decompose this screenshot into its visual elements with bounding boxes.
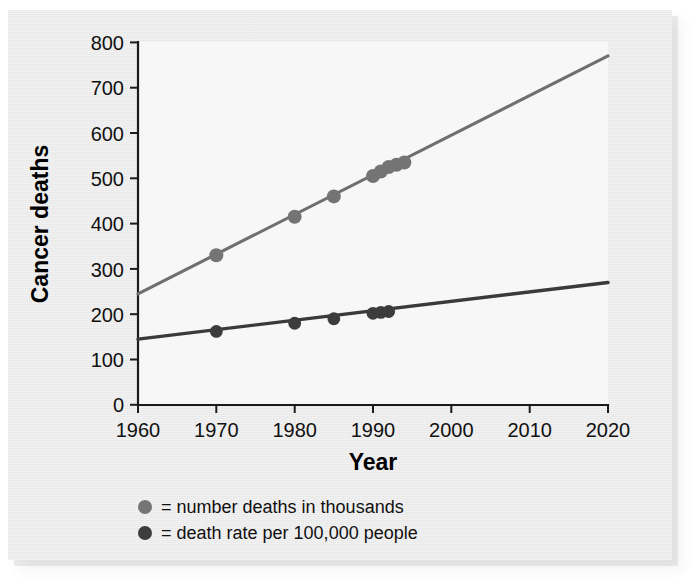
plot-background	[138, 42, 608, 405]
y-tick-label: 800	[91, 32, 124, 54]
legend-marker-circle-icon	[138, 526, 152, 540]
x-axis-title: Year	[349, 449, 398, 475]
y-axis-title: Cancer deaths	[27, 145, 53, 304]
y-tick-label: 400	[91, 213, 124, 235]
y-tick-label: 100	[91, 349, 124, 371]
legend-marker-circle-icon	[138, 500, 152, 514]
data-point-marker	[210, 325, 223, 338]
y-tick-label: 600	[91, 123, 124, 145]
y-tick-label: 300	[91, 259, 124, 281]
legend-item-death-rate: = death rate per 100,000 people	[138, 521, 608, 545]
y-axis-tick-labels: 800 700 600 500 400 300 200 100 0	[91, 32, 124, 416]
y-axis-ticks	[130, 42, 138, 404]
chart-legend: = number deaths in thousands = death rat…	[138, 495, 608, 547]
data-point-marker	[288, 210, 302, 224]
data-point-marker	[327, 189, 341, 203]
x-tick-label: 2000	[429, 419, 474, 441]
legend-item-number-deaths: = number deaths in thousands	[138, 495, 608, 519]
data-point-marker	[209, 248, 223, 262]
y-tick-label: 500	[91, 168, 124, 190]
x-tick-label: 1970	[194, 419, 239, 441]
legend-item-label: = death rate per 100,000 people	[161, 524, 418, 542]
y-tick-label: 200	[91, 304, 124, 326]
x-tick-label: 1980	[272, 419, 317, 441]
x-tick-label: 1960	[116, 419, 161, 441]
x-axis-ticks	[138, 405, 608, 413]
x-tick-label: 2020	[586, 419, 631, 441]
x-axis-tick-labels: 1960 1970 1980 1990 2000 2010 2020	[116, 419, 631, 441]
data-point-marker	[327, 312, 340, 325]
y-tick-label: 0	[113, 394, 124, 416]
legend-item-label: = number deaths in thousands	[161, 498, 404, 516]
data-point-marker	[397, 155, 411, 169]
x-tick-label: 2010	[507, 419, 552, 441]
data-point-marker	[382, 305, 395, 318]
data-point-marker	[288, 317, 301, 330]
figure-root: 800 700 600 500 400 300 200 100 0	[0, 0, 699, 585]
x-tick-label: 1990	[351, 419, 396, 441]
y-tick-label: 700	[91, 77, 124, 99]
